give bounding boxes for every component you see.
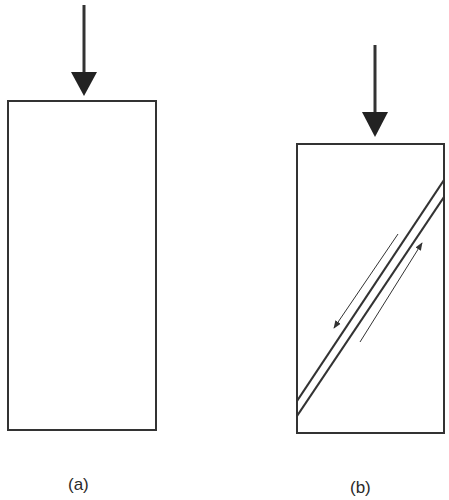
load-arrow-b-icon xyxy=(362,45,388,137)
specimen-b xyxy=(297,144,444,433)
figure-canvas xyxy=(0,0,449,500)
specimen-a xyxy=(8,101,156,430)
panel-b xyxy=(297,45,444,433)
panel-a-label: (a) xyxy=(68,475,89,495)
panel-b-label: (b) xyxy=(350,478,371,498)
load-arrow-a-icon xyxy=(71,5,97,96)
panel-a xyxy=(8,5,156,430)
shear-fault xyxy=(297,180,444,416)
